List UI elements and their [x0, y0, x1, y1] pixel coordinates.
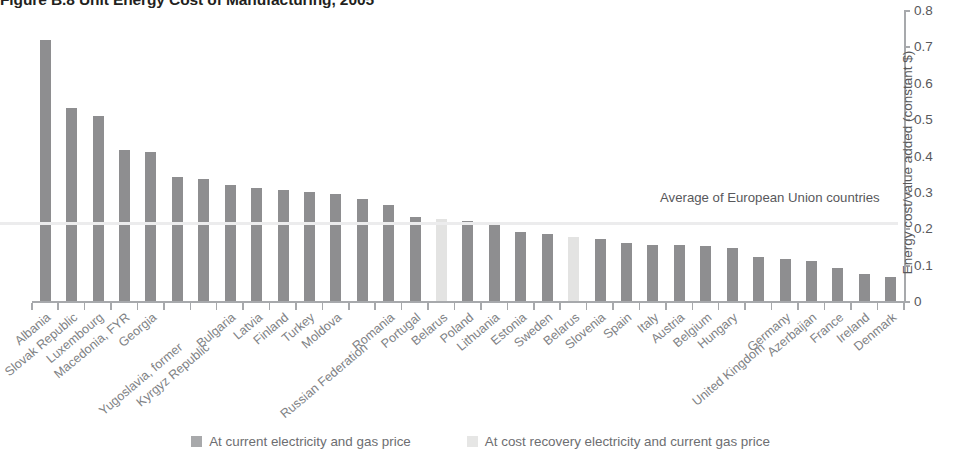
bar [330, 194, 341, 301]
bar [595, 239, 606, 301]
x-axis-tick [508, 303, 534, 310]
x-axis-tick [111, 303, 137, 310]
bar-slot [798, 10, 824, 301]
bar [225, 185, 236, 301]
bar-slot [534, 10, 560, 301]
bar [727, 248, 738, 301]
bar-slot [508, 10, 534, 301]
bar [568, 237, 579, 301]
x-axis-tick [798, 303, 824, 310]
bar [198, 179, 209, 301]
bar [515, 232, 526, 301]
x-axis-tick [587, 303, 613, 310]
x-axis-tick [323, 303, 349, 310]
x-axis-tick [58, 303, 84, 310]
figure-title: Figure B.8 Unit Energy Cost of Manufactu… [0, 0, 374, 9]
bar-slot [349, 10, 375, 301]
x-axis-tick [666, 303, 692, 310]
y-axis-tick-label: 0.3 [914, 184, 933, 199]
bar [885, 277, 896, 301]
bar-slot [825, 10, 851, 301]
bar-slot [164, 10, 190, 301]
bar-slot [111, 10, 137, 301]
bar-slot [138, 10, 164, 301]
bar-slot [402, 10, 428, 301]
bar-slot [428, 10, 454, 301]
x-axis-tick [772, 303, 798, 310]
x-axis-tick [402, 303, 428, 310]
legend-swatch-icon [191, 436, 202, 447]
bar [119, 150, 130, 301]
x-axis-tick [534, 303, 560, 310]
y-axis-tick-label: 0.6 [914, 75, 933, 90]
x-axis-tick [270, 303, 296, 310]
y-axis-title: Energy cost/value added (constant $) [900, 13, 915, 313]
bar [93, 116, 104, 302]
bar [304, 192, 315, 301]
bar-slot [191, 10, 217, 301]
bar-slot [323, 10, 349, 301]
bar-slot [243, 10, 269, 301]
bar-slot [375, 10, 401, 301]
bar [357, 199, 368, 301]
x-axis-tick [851, 303, 877, 310]
bar-slot [85, 10, 111, 301]
x-axis-tick [640, 303, 666, 310]
y-axis-tick-label: 0.2 [914, 221, 933, 236]
bar-slot [851, 10, 877, 301]
y-axis-tick-label: 0 [914, 294, 922, 309]
legend-item: At current electricity and gas price [191, 434, 411, 449]
bar-slot [481, 10, 507, 301]
x-axis-tick [138, 303, 164, 310]
average-line-label: Average of European Union countries [660, 190, 880, 205]
x-axis-tick [296, 303, 322, 310]
bar [251, 188, 262, 301]
bar-slot [32, 10, 58, 301]
bar-slot [455, 10, 481, 301]
bar [647, 245, 658, 301]
y-axis-tick-label: 0.4 [914, 148, 933, 163]
bar-slot [613, 10, 639, 301]
bar [489, 223, 500, 301]
bar-slot [745, 10, 771, 301]
x-axis-tick [719, 303, 745, 310]
legend-item: At cost recovery electricity and current… [467, 434, 770, 449]
bar [383, 205, 394, 301]
legend-swatch-icon [467, 436, 478, 447]
bar [66, 108, 77, 301]
x-axis-tick [455, 303, 481, 310]
bar-slot [666, 10, 692, 301]
average-line [0, 222, 898, 225]
bar [410, 217, 421, 301]
x-axis-tick [428, 303, 454, 310]
bar [278, 190, 289, 301]
x-axis-label-slot: Denmark [878, 311, 904, 411]
bar [145, 152, 156, 301]
legend-label: At cost recovery electricity and current… [485, 434, 770, 449]
x-axis-tick [613, 303, 639, 310]
bar [859, 274, 870, 301]
x-axis-tick [85, 303, 111, 310]
x-axis-tick [243, 303, 269, 310]
bar-slot [640, 10, 666, 301]
bar [40, 40, 51, 301]
bar-slot [58, 10, 84, 301]
x-axis-tick [217, 303, 243, 310]
x-axis-tick [375, 303, 401, 310]
x-axis-tick [32, 303, 58, 310]
bar [436, 219, 447, 301]
bar-slot [296, 10, 322, 301]
x-axis-ticks [32, 303, 904, 310]
x-axis-tick [349, 303, 375, 310]
bar [780, 259, 791, 301]
bar [806, 261, 817, 301]
bar-slot [270, 10, 296, 301]
bar-slot [693, 10, 719, 301]
y-axis-tick-label: 0.5 [914, 112, 933, 127]
figure-container: Figure B.8 Unit Energy Cost of Manufactu… [0, 0, 961, 466]
y-axis-tick-label: 0.7 [914, 39, 933, 54]
y-axis-tick-label: 0.1 [914, 257, 933, 272]
x-axis-tick [693, 303, 719, 310]
bar-series [32, 10, 904, 301]
x-axis-tick [560, 303, 586, 310]
